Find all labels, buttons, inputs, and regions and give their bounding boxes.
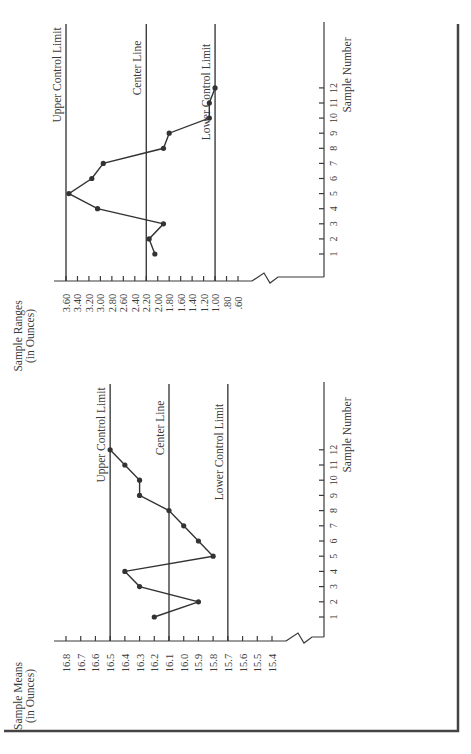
value-axis-title-units: (in Ounces)	[24, 669, 37, 723]
value-tick-label: 1.20	[199, 294, 210, 312]
value-tick-label: 16.0	[179, 654, 190, 672]
value-tick-label: 3.60	[61, 294, 72, 312]
data-point	[137, 584, 142, 589]
data-point	[89, 176, 94, 181]
data-point	[211, 554, 216, 559]
data-point	[147, 236, 152, 241]
sample-means-chart: 16.816.716.616.516.416.316.216.116.015.9…	[12, 382, 354, 730]
reference-line-label: Upper Control Limit	[51, 27, 64, 123]
value-tick-label: 16.5	[105, 654, 116, 672]
control-charts-figure: 16.816.716.616.516.416.316.216.116.015.9…	[0, 0, 471, 754]
value-tick-label: 2.40	[130, 294, 141, 312]
data-point	[212, 85, 217, 90]
axis-break-icon	[286, 633, 324, 643]
sample-tick-label: 8	[328, 146, 339, 151]
data-point	[152, 614, 157, 619]
reference-line-label: Upper Control Limit	[95, 387, 108, 483]
data-point	[196, 538, 201, 543]
sample-tick-label: 8	[328, 508, 339, 513]
sample-tick-label: 5	[328, 191, 339, 196]
data-point	[122, 462, 127, 467]
sample-tick-label: 12	[328, 445, 339, 455]
value-tick-label: 3.40	[72, 294, 83, 312]
value-tick-label: 2.60	[118, 294, 129, 312]
data-point	[152, 251, 157, 256]
data-point	[137, 493, 142, 498]
value-tick-label: 15.5	[252, 654, 263, 672]
data-point	[161, 146, 166, 151]
value-tick-label: 16.6	[90, 654, 101, 672]
sample-tick-label: 10	[328, 475, 339, 485]
sample-tick-label: 6	[328, 539, 339, 544]
data-point	[137, 478, 142, 483]
sample-axis-title: Sample Number	[341, 37, 354, 112]
value-tick-label: 1.00	[210, 294, 221, 312]
value-tick-label: 15.6	[238, 654, 249, 672]
value-tick-label: 1.80	[164, 294, 175, 312]
value-tick-label: 3.20	[84, 294, 95, 312]
sample-tick-label: 7	[328, 523, 339, 528]
sample-tick-label: 4	[328, 206, 339, 211]
data-point	[95, 206, 100, 211]
value-tick-label: .60	[233, 296, 244, 309]
sample-ranges-chart: 3.603.403.203.002.802.602.402.202.001.80…	[12, 22, 354, 372]
reference-line-label: Center Line	[131, 41, 143, 96]
sample-tick-label: 4	[328, 569, 339, 574]
data-point	[207, 100, 212, 105]
sample-tick-label: 1	[328, 615, 339, 620]
reference-line-label: Lower Control Limit	[213, 403, 225, 500]
data-point	[108, 447, 113, 452]
sample-tick-label: 3	[328, 221, 339, 226]
sample-tick-label: 2	[328, 236, 339, 241]
sample-axis-title: Sample Number	[341, 397, 354, 472]
sample-tick-label: 1	[328, 252, 339, 257]
data-point	[167, 131, 172, 136]
data-point	[122, 569, 127, 574]
reference-line-label: Center Line	[154, 401, 166, 456]
figure-frame	[4, 24, 458, 731]
data-point	[166, 508, 171, 513]
value-tick-label: .80	[222, 296, 233, 309]
data-point	[196, 599, 201, 604]
sample-tick-label: 12	[328, 83, 339, 93]
value-tick-label: 15.8	[208, 654, 219, 672]
value-tick-label: 2.00	[153, 294, 164, 312]
data-point	[101, 161, 106, 166]
value-tick-label: 1.60	[176, 294, 187, 312]
value-tick-label: 16.1	[164, 654, 175, 672]
sample-tick-label: 9	[328, 493, 339, 498]
value-tick-label: 15.4	[267, 653, 278, 672]
value-tick-label: 16.8	[61, 654, 72, 672]
sample-tick-label: 11	[328, 98, 339, 108]
value-tick-label: 15.7	[223, 654, 234, 672]
value-tick-label: 16.7	[76, 654, 87, 672]
sample-tick-label: 11	[328, 460, 339, 470]
value-tick-label: 16.4	[120, 653, 131, 672]
value-axis-title-units: (in Ounces)	[24, 309, 37, 363]
data-point	[161, 221, 166, 226]
value-tick-label: 1.40	[187, 294, 198, 312]
sample-tick-label: 6	[328, 176, 339, 181]
sample-tick-label: 3	[328, 584, 339, 589]
sample-tick-label: 10	[328, 113, 339, 123]
sample-tick-label: 2	[328, 599, 339, 604]
value-tick-label: 15.9	[193, 654, 204, 672]
sample-tick-label: 9	[328, 131, 339, 136]
reference-line-label: Lower Control Limit	[200, 43, 212, 140]
data-point	[207, 116, 212, 121]
data-point	[66, 191, 71, 196]
sample-tick-label: 7	[328, 161, 339, 166]
value-tick-label: 3.00	[95, 294, 106, 312]
value-tick-label: 16.3	[135, 654, 146, 672]
axis-break-icon	[252, 273, 324, 283]
value-tick-label: 2.80	[107, 294, 118, 312]
data-point	[181, 523, 186, 528]
value-tick-label: 2.20	[141, 294, 152, 312]
value-tick-label: 16.2	[149, 654, 160, 672]
sample-tick-label: 5	[328, 554, 339, 559]
data-series-line	[69, 88, 215, 254]
data-series-line	[110, 450, 213, 617]
